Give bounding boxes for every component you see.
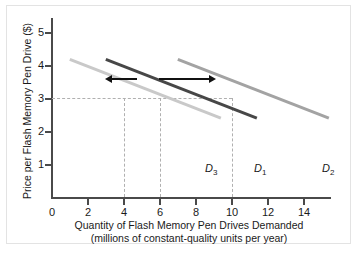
y-axis-line [51, 18, 53, 199]
demand-curve-d3-label: D3 [205, 162, 217, 177]
x-tick-label-14: 14 [294, 206, 314, 218]
chart-plot-area: 5 4 3 2 1 0 2 4 6 8 10 12 14 [0, 0, 361, 256]
x-axis-title: Quantity of Flash Memory Pen Drives Dema… [44, 219, 334, 245]
y-axis-title: Price per Flash Memory Pen Drive ($) [21, 16, 33, 206]
y-tick-1 [45, 164, 52, 166]
quantity-4-reference-line [124, 98, 125, 197]
x-tick-label-12: 12 [258, 206, 278, 218]
x-tick-label-4: 4 [114, 206, 134, 218]
x-tick-4 [123, 199, 125, 205]
x-tick-14 [303, 199, 305, 205]
x-tick-label-2: 2 [78, 206, 98, 218]
demand-curve-d1-stroke [105, 58, 257, 119]
x-tick-10 [231, 199, 233, 205]
x-axis-title-line1: Quantity of Flash Memory Pen Drives Dema… [44, 219, 334, 232]
x-tick-label-0: 0 [42, 206, 62, 218]
y-tick-3 [45, 98, 52, 100]
x-tick-6 [159, 199, 161, 205]
x-tick-8 [195, 199, 197, 205]
x-axis-line [51, 197, 331, 199]
y-tick-4 [45, 65, 52, 67]
x-tick-label-10: 10 [222, 206, 242, 218]
quantity-10-reference-line [232, 98, 233, 197]
arrow-left-head-icon [105, 75, 112, 83]
x-axis-title-line2: (millions of constant-quality units per … [44, 232, 334, 245]
demand-curve-d1-label-text: D [254, 162, 262, 174]
demand-curve-d1 [106, 59, 257, 117]
arrow-right-shaft [159, 78, 209, 80]
x-tick-2 [87, 199, 89, 205]
demand-curve-d1-label: D1 [254, 162, 266, 177]
y-tick-5 [45, 32, 52, 34]
demand-curve-d3-label-sub: 3 [213, 168, 217, 177]
demand-curve-d2-label: D2 [322, 162, 334, 177]
x-tick-12 [267, 199, 269, 205]
arrow-left-shaft [112, 78, 137, 80]
demand-curve-shift-figure: 5 4 3 2 1 0 2 4 6 8 10 12 14 [0, 0, 361, 256]
arrow-right-head-icon [209, 75, 216, 83]
quantity-6-reference-line [160, 98, 161, 197]
y-tick-2 [45, 131, 52, 133]
x-tick-label-6: 6 [150, 206, 170, 218]
demand-curve-d1-label-sub: 1 [262, 168, 266, 177]
x-tick-label-8: 8 [186, 206, 206, 218]
demand-curve-d2-label-text: D [322, 162, 330, 174]
demand-curve-d2-label-sub: 2 [330, 168, 334, 177]
demand-curve-d3-label-text: D [205, 162, 213, 174]
